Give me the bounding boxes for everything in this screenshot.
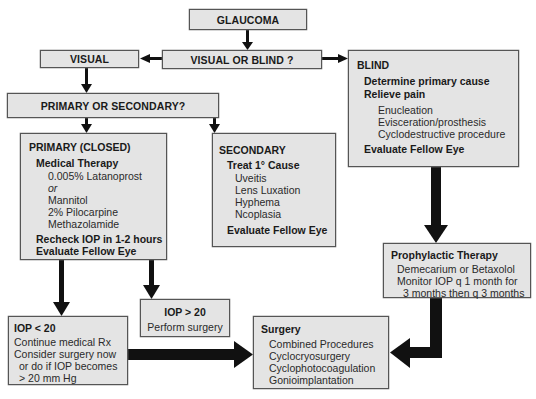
node-prophylactic-line: Demecarium or Betaxolol bbox=[397, 263, 530, 275]
node-surgery-procedure: Cyclocryosurgery bbox=[269, 350, 388, 362]
node-blind-option: Cyclodestructive procedure bbox=[378, 128, 518, 140]
node-surgery-procedure: Gonioimplantation bbox=[269, 374, 388, 386]
node-secondary-cause: Hyphema bbox=[235, 196, 335, 208]
node-visual: VISUAL bbox=[40, 50, 139, 68]
node-primary-footer: Recheck IOP in 1-2 hours bbox=[36, 233, 166, 246]
node-iop-low: IOP < 20 Continue medical Rx Consider su… bbox=[8, 316, 128, 385]
node-blind-title: BLIND bbox=[357, 59, 518, 72]
node-secondary-title: SECONDARY bbox=[219, 144, 335, 157]
node-blind-footer: Evaluate Fellow Eye bbox=[364, 143, 518, 156]
node-iop-low-line: > 20 mm Hg bbox=[14, 372, 127, 384]
node-primary-drug: Methazolamide bbox=[48, 218, 166, 230]
node-iop-low-title: IOP < 20 bbox=[14, 322, 127, 335]
node-primary: PRIMARY (CLOSED) Medical Therapy 0.005% … bbox=[20, 133, 167, 260]
node-visual-or-blind-label: VISUAL OR BLIND ? bbox=[190, 54, 293, 66]
node-surgery-procedure: Cyclophotocoagulation bbox=[269, 362, 388, 374]
node-primary-drug: Mannitol bbox=[48, 194, 166, 206]
node-iop-low-line: Consider surgery now bbox=[14, 348, 127, 360]
node-blind: BLIND Determine primary cause Relieve pa… bbox=[348, 50, 519, 167]
node-primary-title: PRIMARY (CLOSED) bbox=[29, 141, 166, 154]
node-primary-or-secondary: PRIMARY OR SECONDARY? bbox=[7, 93, 219, 118]
node-primary-footer: Evaluate Fellow Eye bbox=[36, 245, 166, 258]
node-iop-low-line: Continue medical Rx bbox=[14, 336, 127, 348]
node-glaucoma: GLAUCOMA bbox=[189, 9, 307, 30]
node-secondary-cause: Lens Luxation bbox=[235, 184, 335, 196]
node-surgery-procedure: Combined Procedures bbox=[269, 338, 388, 350]
node-secondary-cause: Ncoplasia bbox=[235, 208, 335, 220]
node-blind-option: Enucleation bbox=[378, 104, 518, 116]
node-secondary-footer: Evaluate Fellow Eye bbox=[227, 224, 335, 237]
node-iop-high-title: IOP > 20 bbox=[141, 306, 229, 319]
node-primary-or-secondary-label: PRIMARY OR SECONDARY? bbox=[41, 100, 186, 112]
node-iop-high-text: Perform surgery bbox=[141, 321, 229, 333]
node-iop-low-line: or do if IOP becomes bbox=[14, 360, 127, 372]
node-prophylactic-title: Prophylactic Therapy bbox=[391, 249, 530, 262]
node-prophylactic: Prophylactic Therapy Demecarium or Betax… bbox=[383, 243, 531, 298]
node-primary-drug: 0.005% Latanoprost bbox=[48, 170, 166, 182]
node-surgery-title: Surgery bbox=[261, 323, 388, 336]
node-secondary: SECONDARY Treat 1° Cause Uveitis Lens Lu… bbox=[212, 133, 336, 247]
node-prophylactic-line: 3 months then q 3 months bbox=[397, 287, 530, 299]
node-iop-high: IOP > 20 Perform surgery bbox=[140, 299, 230, 337]
node-visual-or-blind: VISUAL OR BLIND ? bbox=[162, 50, 322, 69]
node-surgery: Surgery Combined Procedures Cyclocryosur… bbox=[253, 316, 389, 389]
node-blind-step: Relieve pain bbox=[364, 88, 518, 101]
node-secondary-cause: Uveitis bbox=[235, 172, 335, 184]
node-primary-drug: 2% Pilocarpine bbox=[48, 206, 166, 218]
node-secondary-subtitle: Treat 1° Cause bbox=[227, 159, 335, 172]
node-primary-subtitle: Medical Therapy bbox=[36, 157, 166, 170]
node-primary-or: or bbox=[48, 182, 166, 194]
node-glaucoma-label: GLAUCOMA bbox=[217, 14, 280, 26]
node-blind-option: Evisceration/prosthesis bbox=[378, 116, 518, 128]
node-blind-step: Determine primary cause bbox=[364, 75, 518, 88]
node-prophylactic-line: Monitor IOP q 1 month for bbox=[397, 275, 530, 287]
node-visual-label: VISUAL bbox=[70, 53, 109, 65]
